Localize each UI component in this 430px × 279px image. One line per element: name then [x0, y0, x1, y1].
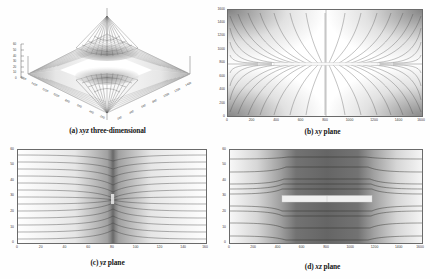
panel-c-y-tick: 10	[3, 226, 14, 229]
panel-d-caption: (d) xz plane	[215, 262, 430, 271]
panel-b-caption: (b) xy plane	[215, 127, 430, 136]
panel-b-caption-prefix: (b)	[305, 127, 315, 136]
panel-b-caption-italic: xy	[315, 127, 322, 136]
panel-b-y-tick: 0	[215, 115, 225, 118]
panel-d-y-tick: 0	[215, 241, 226, 244]
panel-b-x-tick: 200	[249, 119, 255, 122]
panel-b-y-tick: 800	[215, 61, 225, 64]
panel-c-x-tick: 20	[39, 246, 43, 249]
panel-c-caption-suffix: plane	[106, 258, 125, 267]
panel-d-x-tick: 400	[275, 246, 281, 249]
panel-a-caption-italic: xyz	[79, 126, 89, 135]
panel-b-x-tick: 1200	[370, 119, 378, 122]
panel-b-y-tick: 200	[215, 102, 225, 105]
panel-a-z-tick: 0	[15, 76, 17, 80]
panel-d-xz-plane: 60 50 40 30 20 10 0 0 200 400 600 800 10…	[215, 140, 430, 279]
panel-a-z-tick: 10	[13, 70, 16, 74]
panel-b-caption-suffix: plane	[322, 127, 341, 136]
panel-c-y-tick: 30	[3, 194, 14, 197]
panel-d-y-tick: 60	[215, 148, 226, 151]
panel-a-z-tick: 40	[13, 54, 16, 58]
panel-c-y-tick: 50	[3, 163, 14, 166]
panel-a-caption-prefix: (a)	[69, 126, 79, 135]
panel-b-y-tick: 1000	[215, 48, 225, 51]
panel-c-y-tick: 40	[3, 179, 14, 182]
panel-b-y-tick: 600	[215, 75, 225, 78]
panel-d-y-tick: 10	[215, 226, 226, 229]
panel-c-y-tick: 0	[3, 241, 14, 244]
panel-d-x-tick: 1600	[416, 246, 424, 249]
panel-c-x-tick: 100	[133, 246, 139, 249]
panel-b-x-tick: 0	[226, 119, 228, 122]
panel-a-z-tick: 30	[13, 59, 16, 63]
panel-d-x-tick: 800	[323, 246, 329, 249]
panel-d-x-tick: 600	[299, 246, 305, 249]
figure-container: 60 50 40 30 20 10 0 1600 1400 1200 1000 …	[0, 0, 430, 279]
panel-d-y-tick: 30	[215, 194, 226, 197]
panel-a-xyz-three-dimensional: 60 50 40 30 20 10 0 1600 1400 1200 1000 …	[0, 0, 215, 140]
panel-b-y-tick: 400	[215, 88, 225, 91]
panel-b-y-tick: 1600	[215, 8, 225, 11]
panel-c-caption: (c) yz plane	[0, 258, 215, 267]
panel-b-x-tick: 600	[298, 119, 304, 122]
panel-c-y-tick: 20	[3, 210, 14, 213]
panel-d-caption-prefix: (d)	[305, 262, 315, 271]
panel-c-x-tick: 120	[157, 246, 163, 249]
panel-d-x-tick: 1000	[346, 246, 354, 249]
panel-a-z-tick: 60	[13, 42, 16, 46]
panel-d-y-tick: 50	[215, 163, 226, 166]
panel-c-x-tick: 80	[110, 246, 114, 249]
panel-b-x-tick: 1400	[395, 119, 403, 122]
panel-b-plot	[227, 9, 423, 117]
panel-b-x-tick: 400	[273, 119, 279, 122]
panel-c-x-tick: 160	[202, 246, 208, 249]
panel-c-yz-plane: 60 50 40 30 20 10 0 0 20 40 60 80 100 12…	[0, 140, 215, 279]
panel-d-x-tick: 200	[250, 246, 256, 249]
panel-b-y-tick: 1400	[215, 21, 225, 24]
panel-b-x-tick: 1000	[346, 119, 354, 122]
panel-d-x-tick: 0	[228, 246, 230, 249]
panel-a-caption: (a) xyz three-dimensional	[0, 126, 215, 135]
panel-d-x-tick: 1400	[395, 246, 403, 249]
panel-c-x-tick: 40	[63, 246, 67, 249]
panel-a-z-tick: 20	[13, 65, 16, 69]
panel-b-x-tick: 800	[322, 119, 328, 122]
panel-c-y-tick: 60	[3, 148, 14, 151]
panel-c-x-tick: 60	[86, 246, 90, 249]
panel-d-y-tick: 20	[215, 210, 226, 213]
panel-c-plot	[17, 149, 207, 244]
panel-d-caption-suffix: plane	[322, 262, 341, 271]
panel-c-x-tick: 140	[180, 246, 186, 249]
panel-c-caption-prefix: (c)	[90, 258, 100, 267]
panel-a-caption-suffix: three-dimensional	[89, 126, 146, 135]
panel-c-x-tick: 0	[16, 246, 18, 249]
panel-a-plot	[0, 0, 215, 124]
panel-b-y-tick: 1200	[215, 34, 225, 37]
panel-d-x-tick: 1200	[371, 246, 379, 249]
panel-a-z-tick: 50	[13, 48, 16, 52]
panel-b-x-tick: 1600	[417, 119, 425, 122]
panel-d-plot	[229, 149, 423, 244]
panel-d-y-tick: 40	[215, 179, 226, 182]
panel-b-xy-plane: 1600 1400 1200 1000 800 600 400 200 0 0 …	[215, 0, 430, 140]
